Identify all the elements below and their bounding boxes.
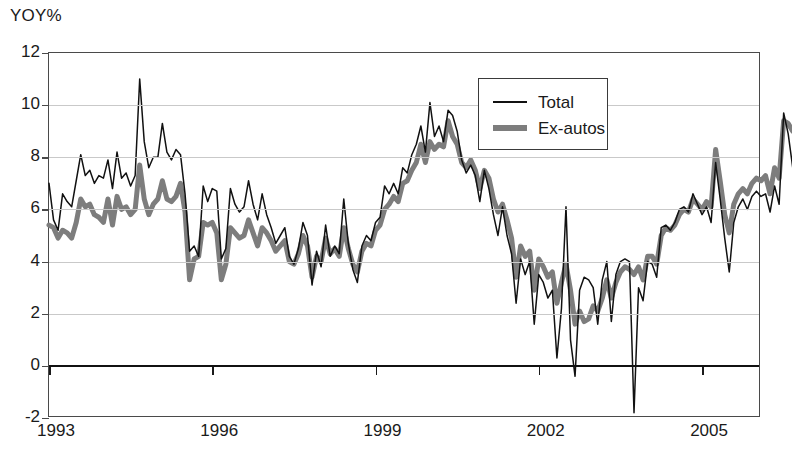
x-tick-mark: [702, 367, 704, 375]
series-line-total: [49, 79, 792, 413]
chart-root: YOY% Total Ex-autos 121086420-2199319961…: [0, 0, 792, 460]
legend-swatch-ex-autos-icon: [493, 125, 527, 131]
x-tick-label: 1999: [364, 421, 402, 441]
y-tick-label: -2: [0, 407, 40, 427]
series-svg: [49, 53, 761, 418]
gridline: [49, 157, 759, 158]
x-tick-mark: [212, 367, 214, 375]
y-tick-label: 10: [0, 94, 40, 114]
legend-entry-ex-autos: Ex-autos: [493, 115, 607, 141]
y-axis-title: YOY%: [10, 6, 62, 26]
y-tick-label: 2: [0, 303, 40, 323]
legend-swatch-total-icon: [493, 101, 527, 103]
y-tick-mark: [42, 105, 49, 106]
y-tick-label: 6: [0, 198, 40, 218]
x-tick-label: 1993: [37, 421, 75, 441]
x-tick-mark: [539, 367, 541, 375]
x-tick-mark: [376, 367, 378, 375]
y-tick-mark: [42, 157, 49, 158]
gridline: [49, 262, 759, 263]
y-tick-mark: [42, 262, 49, 263]
y-tick-mark: [42, 209, 49, 210]
y-tick-label: 12: [0, 42, 40, 62]
y-tick-label: 0: [0, 355, 40, 375]
y-tick-label: 8: [0, 146, 40, 166]
x-tick-label: 1996: [200, 421, 238, 441]
y-tick-mark: [42, 53, 49, 54]
y-tick-label: 4: [0, 251, 40, 271]
legend-entry-total: Total: [493, 89, 607, 115]
x-tick-mark: [49, 367, 51, 375]
legend: Total Ex-autos: [478, 78, 608, 150]
x-tick-label: 2002: [527, 421, 565, 441]
y-tick-mark: [42, 314, 49, 315]
y-tick-mark: [42, 418, 49, 419]
gridline: [49, 314, 759, 315]
gridline: [49, 209, 759, 210]
legend-label-ex-autos: Ex-autos: [538, 120, 605, 137]
zero-line: [49, 365, 759, 368]
plot-area: [48, 52, 760, 417]
gridline: [49, 105, 759, 106]
x-tick-label: 2005: [690, 421, 728, 441]
legend-label-total: Total: [538, 94, 574, 111]
y-tick-mark: [42, 366, 49, 367]
